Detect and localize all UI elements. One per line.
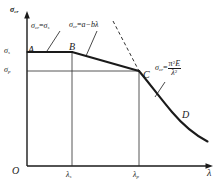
- x-axis-title: λ: [207, 168, 211, 178]
- equation-euler-formula: σcr=π2Eλ2: [155, 60, 181, 77]
- y-tick-label-sigma-s: σs: [4, 47, 10, 56]
- segment-bc-linear: [72, 52, 139, 71]
- y-axis-title: σcr: [10, 6, 18, 15]
- equation-linear-empirical: σcr=a−bλ: [69, 21, 98, 30]
- curve-point-label-a: A: [28, 45, 34, 55]
- x-tick-lambda-p-subscript: p: [136, 174, 138, 179]
- euler-extrapolation-dashed-line: [113, 21, 139, 71]
- y-tick-sigma-p-subscript: p: [8, 69, 10, 74]
- segment-cd-euler-curve: [139, 71, 208, 142]
- leader-line-euler: [155, 82, 165, 97]
- curve-point-label-c: C: [143, 70, 150, 80]
- guide-lines-group: [27, 52, 139, 166]
- curve-point-label-d: D: [182, 110, 189, 120]
- x-tick-label-lambda-s: λs: [66, 171, 71, 180]
- x-tick-label-lambda-p: λp: [133, 171, 139, 180]
- equation-euler-fraction: π2Eλ2: [168, 60, 181, 77]
- y-axis-arrowhead: [24, 11, 30, 19]
- equation-euler-denominator: λ2: [168, 69, 181, 77]
- y-axis-title-subscript: cr: [14, 9, 18, 14]
- equation-euler-modulus: E: [175, 59, 180, 68]
- x-tick-lambda-s-subscript: s: [69, 174, 71, 179]
- equation-yield-rhs-subscript: s: [48, 25, 50, 30]
- equation-linear-rhs: a−bλ: [82, 20, 99, 29]
- y-tick-sigma-s-subscript: s: [8, 50, 10, 55]
- stress-slenderness-diagram: σcr λ O σs σp λs λp A B C D σcr=σs σcr=a…: [0, 0, 223, 194]
- equation-euler-lambda-exponent: 2: [175, 69, 177, 74]
- origin-label: O: [12, 166, 19, 176]
- axis-group: [24, 11, 213, 169]
- curve-point-label-b: B: [69, 42, 75, 52]
- leader-lines-group: [47, 31, 165, 97]
- leader-line-linear: [86, 31, 97, 56]
- equation-yield-stress: σcr=σs: [31, 22, 50, 31]
- leader-line-yield: [47, 31, 60, 51]
- y-tick-label-sigma-p: σp: [4, 66, 10, 75]
